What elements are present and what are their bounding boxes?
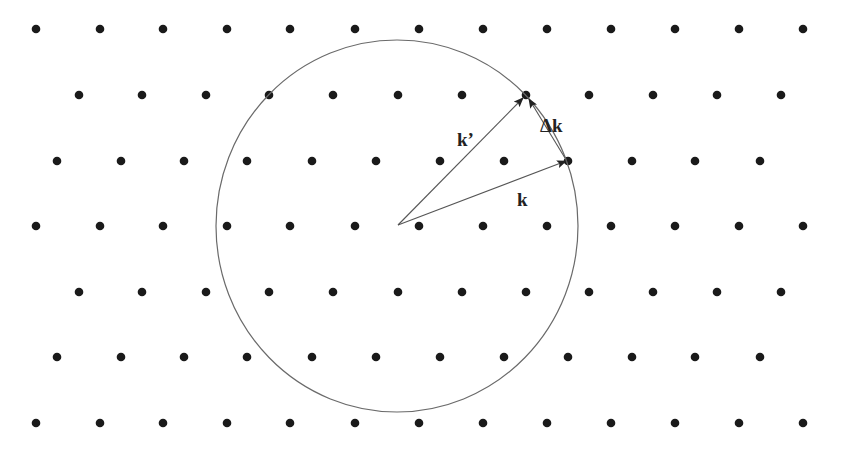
lattice-point	[649, 91, 658, 100]
lattice-point	[479, 419, 488, 428]
lattice-point	[415, 419, 424, 428]
lattice-point	[756, 157, 765, 166]
lattice-point	[500, 353, 509, 362]
reciprocal-lattice-points	[32, 25, 808, 428]
lattice-point	[32, 222, 41, 231]
lattice-point	[799, 222, 808, 231]
lattice-point	[223, 419, 232, 428]
lattice-point	[32, 419, 41, 428]
ewald-sphere-diagram: k’ k Δk	[0, 0, 842, 450]
lattice-point	[585, 91, 594, 100]
lattice-point	[436, 157, 445, 166]
lattice-point	[265, 288, 274, 297]
lattice-point	[351, 222, 360, 231]
lattice-point	[372, 353, 381, 362]
lattice-point	[799, 25, 808, 34]
lattice-point	[777, 288, 786, 297]
lattice-point	[500, 157, 509, 166]
lattice-point	[671, 25, 680, 34]
lattice-point	[223, 25, 232, 34]
lattice-point	[117, 157, 126, 166]
lattice-point	[75, 91, 84, 100]
lattice-point	[394, 288, 403, 297]
lattice-point	[286, 25, 295, 34]
lattice-point	[138, 91, 147, 100]
lattice-point	[777, 91, 786, 100]
lattice-point	[458, 91, 467, 100]
lattice-point	[351, 25, 360, 34]
lattice-point	[543, 222, 552, 231]
lattice-point	[286, 222, 295, 231]
lattice-point	[564, 353, 573, 362]
lattice-point	[735, 25, 744, 34]
lattice-point	[628, 157, 637, 166]
lattice-point	[243, 353, 252, 362]
lattice-point	[180, 157, 189, 166]
lattice-point	[308, 353, 317, 362]
k-label: k	[517, 189, 528, 210]
lattice-point	[671, 419, 680, 428]
lattice-point	[756, 353, 765, 362]
lattice-point	[159, 222, 168, 231]
lattice-point	[308, 157, 317, 166]
lattice-point	[415, 222, 424, 231]
lattice-point	[479, 222, 488, 231]
lattice-point	[180, 353, 189, 362]
lattice-point	[202, 288, 211, 297]
lattice-point	[691, 353, 700, 362]
lattice-point	[117, 353, 126, 362]
lattice-point	[138, 288, 147, 297]
lattice-point	[394, 91, 403, 100]
lattice-point	[735, 222, 744, 231]
lattice-point	[372, 157, 381, 166]
lattice-point	[585, 288, 594, 297]
lattice-point	[671, 222, 680, 231]
lattice-point	[53, 157, 62, 166]
lattice-point	[329, 288, 338, 297]
lattice-point	[159, 25, 168, 34]
lattice-point	[735, 419, 744, 428]
k-prime-label: k’	[457, 129, 474, 150]
lattice-point	[479, 25, 488, 34]
lattice-point	[75, 288, 84, 297]
lattice-point	[691, 157, 700, 166]
lattice-point	[436, 353, 445, 362]
lattice-point	[53, 353, 62, 362]
lattice-point	[96, 25, 105, 34]
lattice-point	[329, 91, 338, 100]
lattice-point	[243, 157, 252, 166]
lattice-point	[415, 25, 424, 34]
lattice-point	[799, 419, 808, 428]
lattice-point	[649, 288, 658, 297]
lattice-point	[96, 419, 105, 428]
lattice-point	[543, 419, 552, 428]
lattice-point	[543, 25, 552, 34]
lattice-point	[607, 419, 616, 428]
lattice-point	[351, 419, 360, 428]
lattice-point	[522, 288, 531, 297]
lattice-point	[458, 288, 467, 297]
lattice-point	[607, 25, 616, 34]
lattice-point	[159, 419, 168, 428]
lattice-point	[286, 419, 295, 428]
lattice-point	[713, 288, 722, 297]
lattice-point	[32, 25, 41, 34]
delta-k-label: Δk	[540, 115, 563, 136]
lattice-point	[607, 222, 616, 231]
k-vector-arrow	[398, 161, 566, 225]
lattice-point	[223, 222, 232, 231]
lattice-point	[96, 222, 105, 231]
lattice-point	[202, 91, 211, 100]
lattice-point	[628, 353, 637, 362]
lattice-point	[713, 91, 722, 100]
